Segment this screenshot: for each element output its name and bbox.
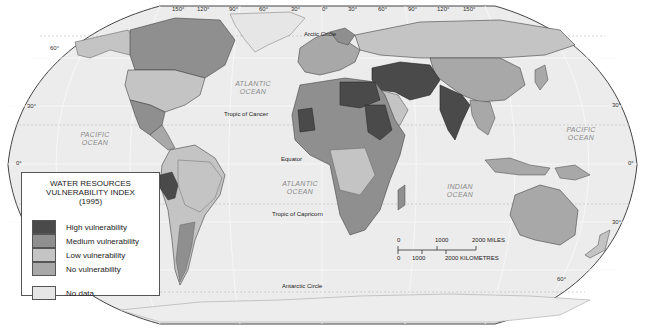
lon-label: 120° (437, 6, 449, 12)
antarctic-circle-label: Antarctic Circle (282, 283, 322, 289)
scale-km-2000: 2000 KILOMETRES (445, 255, 499, 261)
indian-ocean-label: INDIAN OCEAN (435, 183, 485, 199)
lat-label-right: 30° (612, 102, 621, 108)
tropic-of-cancer-label: Tropic of Cancer (224, 111, 268, 117)
legend-item-medium: Medium vulnerability (32, 234, 139, 248)
scale-km-0: 0 (397, 255, 400, 261)
lat-label-right: 30° (612, 219, 621, 225)
pacific-ocean-west-label: PACIFIC OCEAN (70, 131, 120, 147)
tropic-of-capricorn-label: Tropic of Capricorn (272, 211, 323, 217)
pacific-ocean-east-label: PACIFIC OCEAN (556, 126, 606, 142)
lat-label-right: 0° (628, 160, 634, 166)
lon-label: 60° (259, 6, 268, 12)
lon-label: 120° (197, 6, 209, 12)
legend-items: High vulnerability Medium vulnerability … (32, 220, 139, 300)
swatch-no-data (32, 286, 56, 300)
legend-item-none: No vulnerability (32, 262, 139, 276)
equator-label: Equator (281, 156, 302, 162)
lon-label: 30° (348, 6, 357, 12)
legend-item-no-data: No data (32, 286, 139, 300)
legend-item-high: High vulnerability (32, 220, 139, 234)
swatch-low (32, 248, 56, 262)
lon-label: 60° (378, 6, 387, 12)
swatch-medium (32, 234, 56, 248)
lat-label-left: 0° (16, 160, 22, 166)
atlantic-ocean-south-label: ATLANTIC OCEAN (275, 180, 325, 196)
legend-item-low: Low vulnerability (32, 248, 139, 262)
scale-km-1000: 1000 (412, 255, 425, 261)
lat-label-left: 30° (27, 103, 36, 109)
swatch-none (32, 262, 56, 276)
scale-ruler (395, 237, 515, 267)
canada (130, 18, 235, 78)
atlantic-ocean-north-label: ATLANTIC OCEAN (228, 80, 278, 96)
swatch-high (32, 220, 56, 234)
legend: WATER RESOURCES VULNERABILITY INDEX (199… (21, 172, 160, 296)
lat-label-right: 60° (557, 276, 566, 282)
mauritania (298, 108, 315, 132)
lon-label: 0° (322, 6, 328, 12)
scale-bar: 0 1000 2000 MILES 0 1000 2000 KILOMETRES (395, 237, 515, 267)
lon-label: 150° (172, 6, 184, 12)
lat-label-left: 60° (50, 45, 59, 51)
lon-label: 90° (408, 6, 417, 12)
lon-label: 30° (291, 6, 300, 12)
lon-label: 150° (463, 6, 475, 12)
lon-label: 90° (229, 6, 238, 12)
arctic-circle-label: Arctic Circle (304, 31, 336, 37)
legend-title: WATER RESOURCES VULNERABILITY INDEX (199… (22, 179, 159, 206)
